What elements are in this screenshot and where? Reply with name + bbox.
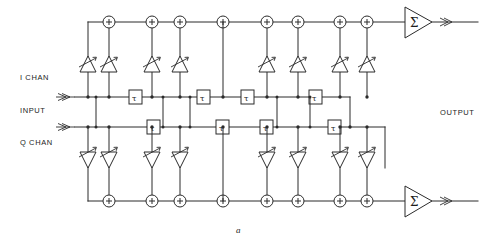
q-input-arrow	[56, 124, 75, 131]
delay-symbol: τ	[312, 94, 317, 103]
q-summing-node-3	[174, 195, 186, 207]
delay-symbol: τ	[244, 94, 249, 103]
i-summing-node-8	[361, 16, 373, 28]
q-tap-to-sum-links	[88, 168, 367, 201]
i-summing-node-5	[261, 16, 273, 28]
i-tap-amplifier-4	[171, 56, 188, 72]
i-input-arrow	[56, 94, 75, 101]
i-summing-node-2	[146, 16, 158, 28]
label-input: INPUT	[20, 106, 46, 115]
i-summing-node-1	[103, 16, 115, 28]
delay-symbol: τ	[200, 94, 205, 103]
label-q-chan: Q CHAN	[20, 138, 53, 147]
circuit-svg: I CHAN INPUT Q CHAN OUTPUT a	[0, 0, 488, 248]
i-delay-element-3: τ	[241, 90, 254, 104]
label-i-chan: I CHAN	[20, 73, 49, 82]
i-tap-amplifier-5	[258, 56, 275, 72]
label-output: OUTPUT	[440, 108, 474, 117]
i-delay-element-1: τ	[129, 90, 142, 104]
figure-caption: a	[236, 225, 241, 235]
i-output-amplifier: Σ	[405, 7, 478, 38]
q-summing-node-2	[146, 195, 158, 207]
i-tap-amplifier-6	[289, 56, 306, 72]
q-summing-node-8	[361, 195, 373, 207]
i-summing-node-3	[174, 16, 186, 28]
q-summing-node-1	[103, 195, 115, 207]
i-tap-amplifier-1	[79, 56, 96, 72]
i-tap-amplifier-7	[331, 56, 348, 72]
i-to-q-cross-feed	[221, 125, 224, 201]
q-summing-node-6	[292, 195, 304, 207]
q-summing-node-7	[334, 195, 346, 207]
i-delay-element-2: τ	[197, 90, 210, 104]
delay-symbol: τ	[331, 124, 336, 133]
i-tap-amplifier-2	[100, 56, 117, 72]
i-tap-amplifier-8	[358, 56, 375, 72]
i-summing-node-7	[334, 16, 346, 28]
q-to-i-cross-feed	[221, 22, 224, 99]
i-tap-amplifier-3	[143, 56, 160, 72]
q-crossover-right	[348, 97, 351, 129]
delay-symbol: τ	[132, 94, 137, 103]
sigma-symbol: Σ	[410, 16, 418, 30]
q-output-amplifier: Σ	[405, 186, 478, 217]
q-summing-node-5	[261, 195, 273, 207]
sigma-symbol: Σ	[410, 195, 418, 209]
transversal-filter-diagram: I CHAN INPUT Q CHAN OUTPUT a	[0, 0, 488, 248]
i-summing-node-6	[292, 16, 304, 28]
i-tap-to-sum-links	[88, 22, 367, 56]
